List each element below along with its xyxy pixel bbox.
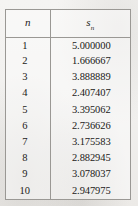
- table-row: 42.407407: [6, 86, 130, 102]
- cell-value-sn: 2.882945: [50, 150, 130, 166]
- cell-index-n: 3: [6, 69, 50, 85]
- cell-value-sn: 5.000000: [50, 37, 130, 53]
- cell-value-sn: 2.407407: [50, 86, 130, 102]
- table-header-row: n sn: [6, 10, 130, 37]
- cell-index-n: 10: [6, 183, 50, 199]
- table-row: 93.078037: [6, 167, 130, 183]
- table-row: 62.736626: [6, 118, 130, 134]
- column-header-sn-subscript: n: [91, 24, 95, 32]
- cell-value-sn: 3.888889: [50, 69, 130, 85]
- column-header-n-symbol: n: [25, 16, 31, 28]
- table-row: 33.888889: [6, 69, 130, 85]
- table-row: 82.882945: [6, 150, 130, 166]
- cell-index-n: 8: [6, 150, 50, 166]
- sequence-table-container: n sn 15.00000021.66666733.88888942.40740…: [5, 9, 131, 200]
- cell-value-sn: 3.175583: [50, 134, 130, 150]
- table-header: n sn: [6, 10, 130, 37]
- table-body: 15.00000021.66666733.88888942.40740753.3…: [6, 37, 130, 199]
- cell-index-n: 7: [6, 134, 50, 150]
- cell-value-sn: 2.736626: [50, 118, 130, 134]
- table-row: 53.395062: [6, 102, 130, 118]
- cell-index-n: 9: [6, 167, 50, 183]
- cell-index-n: 5: [6, 102, 50, 118]
- cell-index-n: 6: [6, 118, 50, 134]
- column-header-n: n: [6, 10, 50, 37]
- cell-index-n: 4: [6, 86, 50, 102]
- column-header-sn: sn: [50, 10, 130, 37]
- cell-value-sn: 3.078037: [50, 167, 130, 183]
- cell-value-sn: 2.947975: [50, 183, 130, 199]
- cell-index-n: 1: [6, 37, 50, 53]
- table-row: 15.000000: [6, 37, 130, 53]
- cell-value-sn: 3.395062: [50, 102, 130, 118]
- cell-value-sn: 1.666667: [50, 53, 130, 69]
- table-row: 21.666667: [6, 53, 130, 69]
- table-row: 73.175583: [6, 134, 130, 150]
- table-row: 102.947975: [6, 183, 130, 199]
- cell-index-n: 2: [6, 53, 50, 69]
- sequence-table: n sn 15.00000021.66666733.88888942.40740…: [6, 10, 130, 199]
